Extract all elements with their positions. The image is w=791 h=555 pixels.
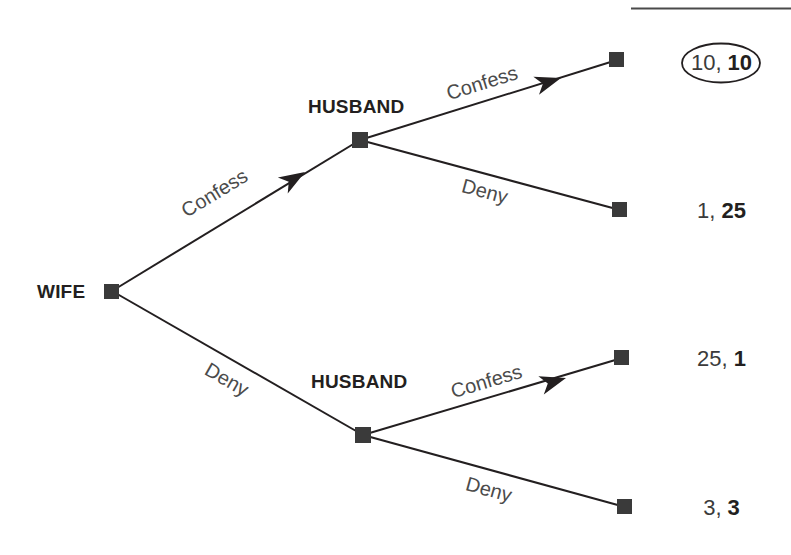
payoff-separator: ,: [722, 346, 734, 371]
node-husband-lower[interactable]: [355, 427, 371, 443]
payoff-separator: ,: [715, 50, 727, 75]
payoff-deny-confess: 25, 1: [683, 346, 760, 372]
payoff-value-second: 25: [722, 198, 746, 223]
payoff-value-first: 1: [697, 198, 709, 223]
payoff-value-first: 10: [691, 50, 715, 75]
player-label-husband-upper: HUSBAND: [308, 96, 404, 118]
terminal-node-deny-confess[interactable]: [614, 350, 629, 365]
player-label-wife: WIFE: [37, 281, 85, 303]
payoff-value-first: 3: [703, 495, 715, 520]
arrowhead-wife-confess: [278, 164, 310, 194]
payoff-confess-deny: 1, 25: [683, 198, 760, 224]
payoff-separator: ,: [709, 198, 721, 223]
payoff-value-second: 10: [728, 50, 752, 75]
node-wife-root[interactable]: [104, 284, 119, 299]
payoff-deny-deny: 3, 3: [683, 495, 760, 521]
payoff-value-first: 25: [697, 346, 721, 371]
node-husband-upper[interactable]: [352, 132, 368, 148]
payoff-separator: ,: [715, 495, 727, 520]
edge-wife-confess: [112, 140, 360, 291]
payoff-confess-confess: 10, 10: [683, 50, 760, 76]
terminal-node-confess-deny[interactable]: [612, 202, 627, 217]
tree-graphics: [0, 0, 791, 555]
payoff-value-second: 3: [728, 495, 740, 520]
game-tree-diagram: WIFE HUSBAND HUSBAND Confess Deny Confes…: [0, 0, 791, 555]
terminal-node-deny-deny[interactable]: [617, 499, 632, 514]
edge-wife-deny: [112, 291, 363, 435]
arrowhead-husband-upper-confess: [533, 69, 563, 95]
terminal-node-confess-confess[interactable]: [609, 52, 624, 67]
payoff-value-second: 1: [734, 346, 746, 371]
player-label-husband-lower: HUSBAND: [311, 371, 407, 393]
